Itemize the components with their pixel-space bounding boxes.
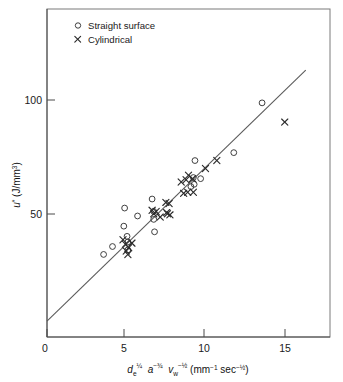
y-tick-label-50: 50 — [30, 208, 42, 220]
x-axis-label: de¼ a−¾ vw−½ (mm−1 sec−½) — [127, 362, 248, 377]
x-tick-label-5: 5 — [121, 342, 127, 354]
scatter-plot-figure: 100 50 0 5 10 15 Straight surface Cylind… — [0, 0, 343, 382]
ylabel-units: (J/mm — [11, 169, 22, 200]
x-tick-label-0: 0 — [42, 342, 48, 354]
y-tick-label-100: 100 — [24, 94, 42, 106]
chart-svg: 100 50 0 5 10 15 Straight surface Cylind… — [0, 0, 343, 382]
legend-label-straight-surface: Straight surface — [88, 20, 155, 31]
x-tick-label-10: 10 — [198, 342, 210, 354]
x-tick-label-15: 15 — [279, 342, 291, 354]
y-axis-label: u* (J/mm3) — [11, 162, 22, 208]
plot-frame — [47, 9, 330, 337]
legend-label-cylindrical: Cylindrical — [88, 34, 132, 45]
xlabel-d-sub: e — [133, 370, 137, 377]
xlabel-units-open: (mm — [190, 364, 210, 375]
xlabel-units-close: ) — [245, 364, 248, 375]
xlabel-units-sec: sec — [218, 364, 236, 375]
ylabel-units-close: ) — [11, 162, 22, 165]
xlabel-v-sub: w — [172, 370, 178, 377]
